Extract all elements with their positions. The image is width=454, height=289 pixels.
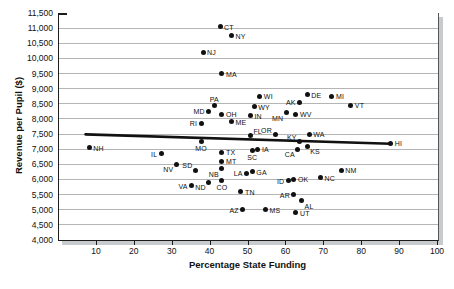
- x-tick-label-80: 80: [346, 246, 376, 256]
- state-label-CO: CO: [217, 184, 228, 191]
- state-label-UT: UT: [300, 209, 310, 216]
- state-label-AK: AK: [286, 99, 296, 106]
- x-tick-40: [210, 241, 211, 245]
- x-tick-10: [96, 241, 97, 245]
- data-point-CA: [295, 147, 300, 152]
- y-tick-label-7500: 7,500: [0, 129, 53, 139]
- x-tick-label-60: 60: [270, 246, 300, 256]
- y-tick-label-7000: 7,000: [0, 144, 53, 154]
- y-tick-label-10000: 10,000: [0, 53, 53, 63]
- state-label-WY: WY: [258, 103, 270, 110]
- data-point-NM: [339, 168, 344, 173]
- y-tick-label-4500: 4,500: [0, 220, 53, 230]
- state-label-OH: OH: [226, 111, 237, 118]
- state-label-NC: NC: [325, 174, 336, 181]
- state-label-NV: NV: [163, 166, 173, 173]
- data-point-NJ: [201, 50, 206, 55]
- y-tick-label-11500: 11,500: [0, 8, 53, 18]
- y-tick-label-4000: 4,000: [0, 235, 53, 245]
- state-label-DE: DE: [311, 91, 321, 98]
- state-label-WA: WA: [313, 131, 324, 138]
- data-point-OR: [273, 132, 278, 137]
- x-tick-70: [323, 241, 324, 245]
- state-label-PA: PA: [210, 96, 219, 103]
- data-point-NH: [87, 145, 92, 150]
- state-label-ND: ND: [195, 184, 206, 191]
- state-label-MS: MS: [270, 206, 281, 213]
- data-point-SD: [193, 168, 198, 173]
- state-label-OR: OR: [261, 127, 272, 134]
- state-label-WI: WI: [264, 93, 273, 100]
- x-tick-label-20: 20: [119, 246, 149, 256]
- state-label-CA: CA: [285, 151, 295, 158]
- state-label-ID: ID: [277, 177, 284, 184]
- x-tick-label-10: 10: [81, 246, 111, 256]
- state-label-SD: SD: [182, 162, 192, 169]
- state-label-HI: HI: [395, 140, 402, 147]
- x-tick-label-40: 40: [195, 246, 225, 256]
- data-point-DE: [305, 92, 310, 97]
- state-label-IN: IN: [254, 112, 261, 119]
- data-point-PA: [212, 103, 217, 108]
- state-label-IL: IL: [151, 150, 157, 157]
- data-point-SC: [250, 148, 255, 153]
- state-label-WV: WV: [300, 111, 312, 118]
- x-tick-30: [172, 241, 173, 245]
- state-label-ME: ME: [235, 118, 246, 125]
- x-tick-80: [361, 241, 362, 245]
- x-tick-label-70: 70: [308, 246, 338, 256]
- data-point-CT: [218, 24, 223, 29]
- state-label-VT: VT: [355, 102, 364, 109]
- y-tick-label-5500: 5,500: [0, 190, 53, 200]
- y-tick-label-9500: 9,500: [0, 69, 53, 79]
- state-label-AZ: AZ: [229, 206, 238, 213]
- state-label-AR: AR: [280, 191, 290, 198]
- x-tick-60: [285, 241, 286, 245]
- plot-area: CTNYNJMAPAMDOHRIMEWIWYINMNWVAKDEMIVTORFL…: [58, 13, 439, 241]
- x-tick-50: [248, 241, 249, 245]
- state-label-OK: OK: [298, 176, 309, 183]
- state-label-SC: SC: [247, 154, 257, 161]
- state-label-KS: KS: [310, 148, 320, 155]
- state-label-VA: VA: [178, 182, 187, 189]
- data-point-RI: [199, 121, 204, 126]
- data-point-NV: [174, 162, 179, 167]
- state-label-NH: NH: [93, 144, 104, 151]
- state-label-NY: NY: [235, 32, 245, 39]
- x-tick-90: [399, 241, 400, 245]
- x-tick-label-100: 100: [422, 246, 452, 256]
- state-label-TX: TX: [226, 149, 235, 156]
- data-point-WA: [307, 132, 312, 137]
- state-label-KY: KY: [287, 134, 297, 141]
- y-tick-label-6500: 6,500: [0, 159, 53, 169]
- state-label-MT: MT: [226, 158, 237, 165]
- x-tick-label-50: 50: [233, 246, 263, 256]
- data-point-MO: [199, 139, 204, 144]
- state-label-GA: GA: [256, 168, 267, 175]
- state-label-RI: RI: [190, 120, 197, 127]
- state-label-CT: CT: [224, 23, 234, 30]
- state-label-MI: MI: [336, 93, 344, 100]
- x-tick-label-30: 30: [157, 246, 187, 256]
- y-tick-label-11000: 11,000: [0, 23, 53, 33]
- x-tick-label-90: 90: [384, 246, 414, 256]
- y-tick-label-9000: 9,000: [0, 84, 53, 94]
- scatter-chart-figure: Revenue per Pupil ($) CTNYNJMAPAMDOHRIME…: [0, 0, 454, 289]
- y-tick-label-8500: 8,500: [0, 99, 53, 109]
- state-label-NB: NB: [209, 171, 219, 178]
- state-label-MD: MD: [193, 108, 204, 115]
- data-point-KS: [305, 144, 310, 149]
- data-point-FL: [248, 133, 253, 138]
- state-label-LA: LA: [234, 170, 243, 177]
- data-point-HI: [388, 141, 393, 146]
- y-tick-label-6000: 6,000: [0, 174, 53, 184]
- data-point-LA: [244, 171, 249, 176]
- y-tick-label-5000: 5,000: [0, 205, 53, 215]
- state-label-FL: FL: [253, 128, 262, 135]
- x-tick-100: [437, 241, 438, 245]
- state-label-MO: MO: [195, 145, 207, 152]
- trend-line: [59, 13, 438, 240]
- state-label-TN: TN: [245, 188, 255, 195]
- state-label-MN: MN: [272, 115, 283, 122]
- state-label-NM: NM: [345, 167, 356, 174]
